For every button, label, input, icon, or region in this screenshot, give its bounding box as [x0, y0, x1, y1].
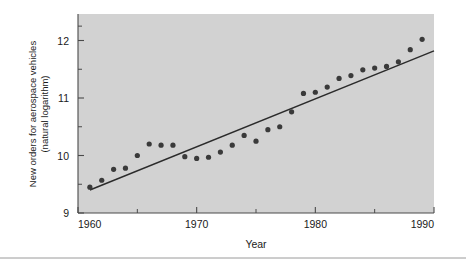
data-point [372, 66, 377, 71]
data-point [253, 139, 258, 144]
data-point [289, 109, 294, 114]
data-point [360, 67, 365, 72]
x-tick-label-1970: 1970 [185, 218, 209, 230]
data-point [396, 59, 401, 64]
data-point [336, 76, 341, 81]
data-point [111, 167, 116, 172]
data-point [218, 149, 223, 154]
data-point [87, 185, 92, 190]
data-point [182, 154, 187, 159]
plot-area-background [78, 14, 434, 213]
data-point [147, 141, 152, 146]
data-point [277, 124, 282, 129]
data-point [265, 127, 270, 132]
y-tick-label-10: 10 [57, 150, 69, 162]
data-point [348, 73, 353, 78]
data-point [135, 153, 140, 158]
y-axis-title-line1: New orders for aerospace vehicles [27, 41, 38, 188]
data-point [420, 37, 425, 42]
data-point [408, 47, 413, 52]
scatter-plot: 9101112 1960197019801990 Year New orders… [0, 0, 466, 266]
y-tick-label-11: 11 [58, 92, 69, 104]
x-axis-title: Year [245, 238, 267, 250]
data-point [242, 133, 247, 138]
data-point [325, 84, 330, 89]
data-point [158, 143, 163, 148]
data-point [170, 143, 175, 148]
data-point [206, 155, 211, 160]
data-point [313, 90, 318, 95]
data-point [99, 178, 104, 183]
x-tick-label-1980: 1980 [304, 218, 328, 230]
y-tick-label-12: 12 [57, 35, 69, 47]
data-point [301, 91, 306, 96]
data-point [384, 64, 389, 69]
data-point [194, 156, 199, 161]
data-point [123, 166, 128, 171]
x-tick-label-1960: 1960 [78, 218, 102, 230]
x-tick-label-1990: 1990 [411, 218, 435, 230]
y-tick-label-9: 9 [63, 207, 69, 219]
y-axis-title-line2: (natural logarithm) [39, 75, 50, 152]
chart-figure: 9101112 1960197019801990 Year New orders… [0, 0, 466, 266]
data-point [230, 143, 235, 148]
